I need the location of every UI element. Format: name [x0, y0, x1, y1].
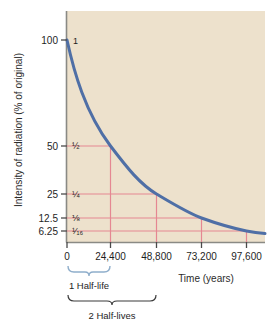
x-tick-label-97600: 97,600: [231, 251, 262, 262]
x-tick-label-24400: 24,400: [95, 251, 126, 262]
x-tick-label-48800: 48,800: [141, 251, 172, 262]
y-tick-label-12-5: 12.5: [39, 213, 59, 224]
y-tick-label-100: 100: [41, 35, 58, 46]
fraction-label-one-eighth: ⅛: [72, 213, 80, 223]
fraction-label-1: 1: [73, 36, 78, 46]
half-life-decay-chart: 100 50 25 12.5 6.25 1 ½ ¼ ⅛ ¹⁄₁₆ 0 24,40…: [0, 0, 269, 328]
y-tick-label-6-25: 6.25: [39, 226, 59, 237]
y-tick-label-50: 50: [47, 141, 59, 152]
two-half-lives-bracket: [68, 295, 156, 305]
x-axis-title: Time (years): [178, 273, 234, 284]
two-half-lives-label: 2 Half-lives: [89, 310, 136, 321]
y-tick-label-25: 25: [47, 189, 59, 200]
fraction-label-one-half: ½: [72, 141, 80, 151]
x-tick-label-73200: 73,200: [186, 251, 217, 262]
fraction-label-one-quarter: ¼: [72, 189, 80, 199]
fraction-label-one-sixteenth: ¹⁄₁₆: [72, 226, 84, 236]
y-axis-title: Intensity of radiation (% of original): [13, 53, 24, 207]
x-tick-label-0: 0: [64, 251, 70, 262]
one-half-life-bracket: [68, 266, 110, 276]
one-half-life-label: 1 Half-life: [69, 280, 109, 291]
